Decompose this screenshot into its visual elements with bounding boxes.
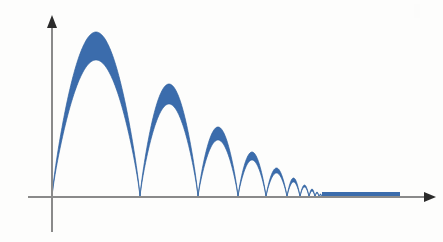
- vertical-axis-arrow-icon: [47, 15, 57, 28]
- envelope-band-area: [52, 32, 322, 197]
- damped-oscillation-chart: [0, 0, 443, 242]
- envelope-band-group: [52, 32, 322, 197]
- horizontal-axis-arrow-icon: [424, 192, 436, 202]
- figure-root: [0, 0, 443, 242]
